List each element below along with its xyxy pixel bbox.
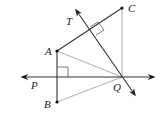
line-QT bbox=[76, 10, 135, 95]
label-T: T bbox=[66, 15, 73, 27]
label-Q: Q bbox=[113, 81, 121, 93]
point-B bbox=[55, 100, 58, 103]
geometry-diagram: A B C P Q T bbox=[0, 0, 162, 117]
label-P: P bbox=[30, 79, 38, 91]
label-C: C bbox=[128, 2, 136, 14]
point-A bbox=[55, 49, 58, 52]
point-C bbox=[120, 6, 123, 9]
segment-AQ bbox=[57, 51, 122, 77]
label-B: B bbox=[44, 98, 51, 110]
right-angle-mark-P bbox=[57, 67, 68, 77]
label-A: A bbox=[44, 45, 52, 57]
